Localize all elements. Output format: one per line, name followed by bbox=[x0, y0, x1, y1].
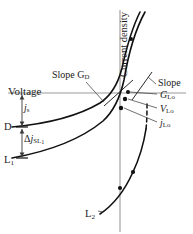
leader-line-l2 bbox=[98, 211, 103, 212]
leader-line-slope-glo bbox=[148, 77, 156, 84]
marker-dark-upper bbox=[129, 37, 133, 41]
marker-l2-upper bbox=[131, 170, 135, 174]
slope-glo-label: Slope bbox=[158, 78, 181, 88]
vlo-subscript: Lo bbox=[166, 107, 174, 114]
curve-l2-label: L2 bbox=[85, 209, 95, 221]
marker-operating-point-vlo bbox=[123, 97, 127, 101]
slope-gd-label: Slope GD bbox=[52, 70, 89, 81]
marker-operating-point-jlo bbox=[119, 106, 123, 110]
curve-l2-dashed-continuation bbox=[146, 104, 147, 129]
curve-l2 bbox=[100, 129, 146, 214]
l1-subscript: 1 bbox=[10, 159, 14, 167]
jlo-subscript: Lo bbox=[163, 121, 171, 128]
delta-jsl-label: ΔjSL1 bbox=[24, 134, 44, 145]
glo-label: GLo bbox=[160, 90, 175, 101]
slope-gd-subscript: D bbox=[85, 73, 90, 80]
delta-j-subscript: SL bbox=[33, 137, 41, 144]
js-subscript: s bbox=[27, 106, 30, 113]
jv-characteristic-diagram bbox=[0, 0, 193, 234]
curve-l1-label: L1 bbox=[4, 155, 14, 167]
leader-line-jlo bbox=[124, 108, 157, 122]
vlo-label: VLo bbox=[160, 104, 174, 115]
slope-gd-text: Slope G bbox=[52, 69, 85, 80]
jlo-label: jLo bbox=[160, 118, 170, 129]
tangent-line-slope-glo bbox=[132, 72, 152, 100]
marker-intersection-glo bbox=[126, 90, 130, 94]
leader-line-vlo bbox=[128, 99, 157, 108]
leader-line-slope-gd bbox=[86, 82, 104, 102]
js-label: js bbox=[24, 103, 29, 114]
l2-subscript: 2 bbox=[91, 213, 95, 221]
current-density-axis-label: Current density bbox=[119, 12, 130, 77]
glo-subscript: Lo bbox=[167, 93, 175, 100]
voltage-axis-label: Voltage bbox=[8, 86, 41, 97]
delta-j-subscript-index: 1 bbox=[41, 138, 44, 145]
marker-l2-axis bbox=[118, 186, 122, 190]
point-d-label: D bbox=[4, 122, 12, 133]
